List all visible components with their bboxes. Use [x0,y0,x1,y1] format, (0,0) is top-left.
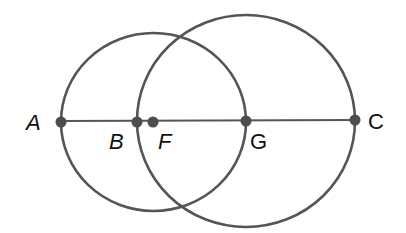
geometry-diagram: ABFGC [0,0,406,233]
segment-AC [61,120,355,121]
point-F [148,117,159,128]
point-C [350,115,361,126]
point-B [132,117,143,128]
label-F: F [158,129,173,154]
point-G [241,116,252,127]
point-labels: ABFGC [24,109,384,154]
label-A: A [24,110,41,135]
label-C: C [368,109,384,134]
point-A [56,117,67,128]
label-G: G [250,129,267,154]
label-B: B [109,129,124,154]
